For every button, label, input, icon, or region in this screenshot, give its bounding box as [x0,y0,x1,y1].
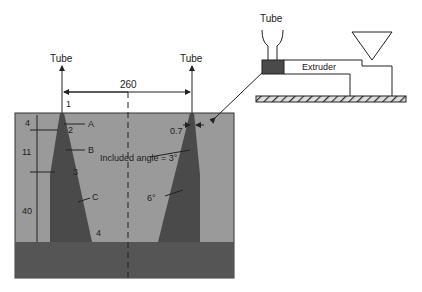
extruder-label: Extruder [302,62,336,72]
gap-dim: 0.7 [170,126,183,136]
tube-right-label: Tube [180,53,203,64]
taper-angle: 6° [147,193,156,203]
zone-1: 1 [66,99,71,109]
ground [256,96,406,102]
label-c: C [92,192,99,202]
zone-4: 4 [96,228,101,238]
tube-left-label: Tube [50,53,73,64]
extruder-tube-label: Tube [260,13,283,24]
included-angle: Included angle = 3° [100,153,178,163]
width-dim: 260 [120,79,137,90]
hopper [352,32,392,60]
label-b: B [88,145,94,155]
die-base [15,242,234,278]
height-40: 40 [22,206,32,216]
height-11: 11 [22,147,31,157]
die-diagram: Tube Tube 260 1 2 3 4 A B C 4 11 40 0.7 … [0,0,422,292]
die-head [262,60,284,74]
zone-3: 3 [73,167,78,177]
zone-2: 2 [68,125,73,135]
label-a: A [88,119,94,129]
height-4: 4 [25,118,30,128]
